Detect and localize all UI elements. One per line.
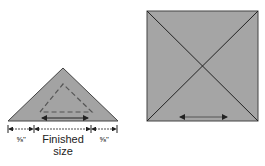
square-figure xyxy=(147,11,258,121)
finished-label-line2: size xyxy=(53,145,73,157)
seam-allowance-left-label: ⅝" xyxy=(16,135,26,144)
measurement-bar xyxy=(8,125,117,133)
seam-allowance-right-label: ⅝" xyxy=(99,135,109,144)
triangle-figure xyxy=(8,68,118,121)
triangle-shape xyxy=(8,68,118,121)
finished-label-line1: Finished xyxy=(42,133,84,145)
